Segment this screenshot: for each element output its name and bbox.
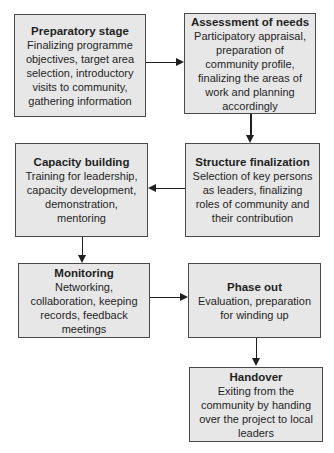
arrow-left-icon <box>148 184 156 192</box>
node-body: Networking, collaboration, keeping recor… <box>23 280 145 336</box>
arrow-down-icon <box>78 255 86 263</box>
node-capacity-building: Capacity building Training for leadershi… <box>15 143 148 237</box>
arrow-down-icon <box>246 135 254 143</box>
arrow-monitoring-to-phaseout-line <box>150 297 181 299</box>
arrow-right-icon <box>176 58 184 66</box>
node-monitoring: Monitoring Networking, collaboration, ke… <box>18 263 150 338</box>
arrow-capacity-to-monitoring-line <box>82 237 84 256</box>
node-body: Participatory appraisal, preparation of … <box>189 29 311 113</box>
arrow-structure-to-capacity-line <box>156 188 185 190</box>
node-handover: Handover Exiting from the community by h… <box>189 367 323 442</box>
arrow-preparatory-to-assessment-line <box>146 62 177 64</box>
arrow-phaseout-to-handover-line <box>256 338 258 359</box>
node-title: Handover <box>229 370 282 384</box>
node-phase-out: Phase out Evaluation, preparation for wi… <box>188 263 321 338</box>
node-title: Structure finalization <box>195 155 309 169</box>
node-assessment-of-needs: Assessment of needs Participatory apprai… <box>184 13 316 114</box>
arrow-down-icon <box>252 358 260 366</box>
node-title: Preparatory stage <box>31 24 129 38</box>
node-body: Selection of key persons as leaders, fin… <box>190 169 315 225</box>
node-preparatory-stage: Preparatory stage Finalizing programme o… <box>14 14 146 117</box>
node-structure-finalization: Structure finalization Selection of key … <box>185 143 320 237</box>
node-title: Capacity building <box>34 155 130 169</box>
arrow-right-icon <box>180 293 188 301</box>
node-body: Finalizing programme objectives, target … <box>19 38 141 108</box>
node-body: Evaluation, preparation for winding up <box>193 294 316 322</box>
arrow-assessment-to-structure-line <box>250 114 252 136</box>
node-title: Assessment of needs <box>191 15 309 29</box>
flowchart-canvas: Preparatory stage Finalizing programme o… <box>0 0 334 453</box>
node-body: Exiting from the community by handing ov… <box>194 384 318 440</box>
node-title: Phase out <box>227 280 282 294</box>
node-body: Training for leadership, capacity develo… <box>20 169 143 225</box>
node-title: Monitoring <box>54 266 113 280</box>
